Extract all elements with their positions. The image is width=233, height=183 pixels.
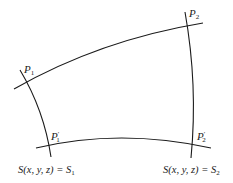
label-p1-prime: P′1: [50, 130, 60, 144]
diagram-canvas: P1 P2 P′1 P′2 S(x, y, z) = S1 S(x, y, z)…: [0, 0, 233, 183]
upper-ray-curve: [14, 23, 203, 89]
equation-s1: S(x, y, z) = S1: [18, 164, 75, 177]
label-p1: P1: [23, 63, 35, 77]
label-p2: P2: [188, 7, 200, 21]
label-p2-prime: P′2: [196, 130, 206, 144]
equation-s2: S(x, y, z) = S2: [163, 164, 220, 177]
surface-s2-curve: [185, 12, 193, 158]
lower-ray-curve: [36, 138, 211, 148]
